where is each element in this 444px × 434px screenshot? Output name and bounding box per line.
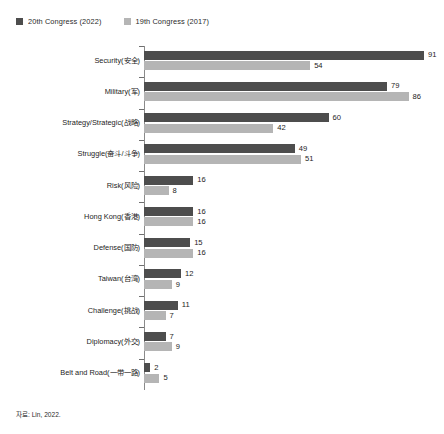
bar-previous [144,124,273,133]
bar-previous [144,249,193,258]
bar-rows: Security(安全)9154Military(军)7986Strategy/… [0,46,444,390]
bar-value-label: 2 [154,363,158,372]
bar-row: Diplomacy(外交)79 [0,327,444,358]
axis-tick [139,327,144,328]
category-label: Defense(国防) [94,243,140,253]
bar-value-label: 16 [197,175,205,184]
square-swatch-icon [124,18,131,25]
category-label: Hong Kong(香港) [84,212,140,222]
bar-previous [144,280,172,289]
square-swatch-icon [16,18,23,25]
bar-previous [144,186,169,195]
bar-row: Strategy/Strategic(战略)6042 [0,109,444,140]
axis-tick [139,109,144,110]
bar-current [144,238,190,247]
axis-tick [139,234,144,235]
category-label: Taiwan(台湾) [98,274,140,284]
category-label: Belt and Road(一带一路) [60,368,140,378]
bar-value-label: 9 [176,342,180,351]
bar-current [144,113,329,122]
bar-value-label: 49 [299,144,307,153]
legend-label: 19th Congress (2017) [136,17,210,26]
bar-current [144,332,166,341]
bar-value-label: 16 [197,217,205,226]
bar-value-label: 12 [185,269,193,278]
bar-value-label: 8 [173,186,177,195]
bar-current [144,51,424,60]
bar-previous [144,342,172,351]
category-label: Risk(风险) [107,181,140,191]
bar-value-label: 7 [170,332,174,341]
bar-value-label: 9 [176,280,180,289]
axis-tick [139,46,144,47]
bar-row: Taiwan(台湾)129 [0,265,444,296]
bar-row: Defense(国防)1516 [0,234,444,265]
bar-row: Security(安全)9154 [0,46,444,77]
bar-current [144,144,295,153]
bar-value-label: 79 [391,81,399,90]
bar-value-label: 86 [413,92,421,101]
bar-row: Hong Kong(香港)1616 [0,202,444,233]
bar-current [144,269,181,278]
bar-value-label: 15 [194,238,202,247]
category-label: Strategy/Strategic(战略) [62,118,140,128]
bar-value-label: 54 [314,61,322,70]
bar-value-label: 5 [163,373,167,382]
axis-tick [139,140,144,141]
legend-entry: 19th Congress (2017) [124,17,210,26]
bar-current [144,301,178,310]
axis-tick [139,359,144,360]
chart-plot-area: Security(安全)9154Military(军)7986Strategy/… [0,44,444,394]
category-label: Security(安全) [94,56,140,66]
category-label: Struggle(奋斗/斗争) [77,149,140,159]
axis-tick [139,202,144,203]
category-label: Diplomacy(外交) [87,337,140,347]
bar-previous [144,61,310,70]
bar-value-label: 7 [170,311,174,320]
axis-tick [139,265,144,266]
bar-value-label: 60 [333,113,341,122]
axis-tick [139,296,144,297]
bar-value-label: 42 [277,123,285,132]
bar-previous [144,217,193,226]
bar-current [144,363,150,372]
chart-figure: 20th Congress (2022)19th Congress (2017)… [0,0,444,434]
bar-current [144,82,387,91]
bar-current [144,176,193,185]
bar-row: Risk(风险)168 [0,171,444,202]
legend-entry: 20th Congress (2022) [16,17,102,26]
axis-tick [139,77,144,78]
bar-previous [144,311,166,320]
bar-previous [144,92,409,101]
bar-row: Belt and Road(一带一路)25 [0,359,444,390]
bar-previous [144,374,159,383]
bar-current [144,207,193,216]
bar-value-label: 91 [428,50,436,59]
bar-value-label: 16 [197,248,205,257]
bar-row: Challenge(挑战)117 [0,296,444,327]
chart-legend: 20th Congress (2022)19th Congress (2017) [16,17,209,26]
bar-previous [144,155,301,164]
legend-label: 20th Congress (2022) [28,17,102,26]
axis-tick [139,171,144,172]
bar-value-label: 51 [305,154,313,163]
bar-row: Military(军)7986 [0,77,444,108]
category-label: Challenge(挑战) [88,306,140,316]
bar-value-label: 11 [182,300,190,309]
source-note: 자료: Lin, 2022. [16,409,61,419]
bar-value-label: 16 [197,207,205,216]
category-label: Military(军) [105,87,140,97]
bar-row: Struggle(奋斗/斗争)4951 [0,140,444,171]
